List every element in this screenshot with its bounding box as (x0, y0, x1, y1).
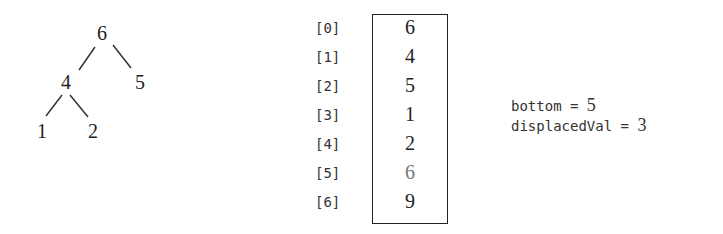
array-cell-dimmed: 6 (372, 161, 448, 184)
array-index: [2] (315, 78, 340, 94)
array-index: [6] (315, 194, 340, 210)
array-index: [4] (315, 136, 340, 152)
variable-value: 5 (587, 95, 596, 115)
array-cell: 2 (372, 132, 448, 155)
array-index: [0] (315, 20, 340, 36)
variable-label: displacedVal = (511, 118, 637, 134)
array-index: [3] (315, 107, 340, 123)
tree-node-root: 6 (97, 23, 107, 43)
array-cell: 5 (372, 74, 448, 97)
array-cell: 4 (372, 45, 448, 68)
variable-displacedval: displacedVal = 3 (511, 115, 646, 136)
tree-node-left-right: 2 (88, 121, 98, 141)
array-index: [1] (315, 49, 340, 65)
array-cell: 1 (372, 103, 448, 126)
array-index: [5] (315, 165, 340, 181)
variable-label: bottom = (511, 98, 587, 114)
array-cell: 6 (372, 16, 448, 39)
variable-bottom: bottom = 5 (511, 95, 596, 116)
tree-node-right: 5 (135, 72, 145, 92)
tree-node-left-left: 1 (37, 121, 47, 141)
array-cell: 9 (372, 190, 448, 213)
tree-node-left: 4 (61, 72, 71, 92)
variable-value: 3 (637, 115, 646, 135)
